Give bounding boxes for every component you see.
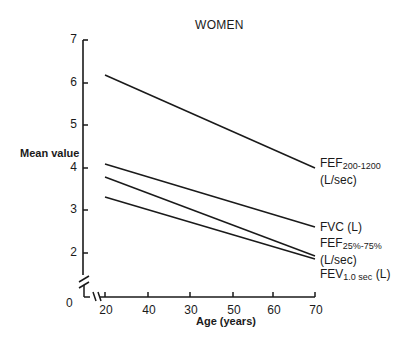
x-tick-label: 60 [262, 303, 286, 317]
y-tick-label: 7 [63, 32, 77, 46]
series-line-fev1 [105, 197, 315, 259]
x-tick-label: 70 [304, 303, 328, 317]
legend-label-fef200-1200: FEF200-1200 (L/sec) [320, 156, 381, 187]
y-tick-label: 4 [63, 160, 77, 174]
series-line-fef25-75 [105, 177, 315, 256]
legend-label-fvc: FVC (L) [320, 220, 362, 234]
y-axis-label: Mean value [20, 147, 79, 159]
series-line-fvc [105, 164, 315, 227]
x-tick-label: 20 [94, 303, 118, 317]
legend-label-fef25-75: FEF25%-75% (L/sec) [320, 236, 382, 267]
y-tick-label: 3 [63, 202, 77, 216]
y-axis-break-icon [79, 276, 90, 297]
y-tick-label: 2 [63, 245, 77, 259]
y-tick-label: 5 [63, 117, 77, 131]
y-origin-label: 0 [66, 296, 73, 310]
x-tick-label: 50 [222, 303, 246, 317]
chart-title: WOMEN [195, 18, 244, 32]
x-tick-label: 40 [137, 303, 161, 317]
x-axis-break-icon [93, 292, 101, 301]
series-line-fef200-1200 [105, 75, 315, 168]
legend-label-fev1: FEV1.0 sec (L) [320, 267, 390, 284]
x-tick-label: 30 [179, 303, 203, 317]
y-tick-label: 6 [63, 75, 77, 89]
